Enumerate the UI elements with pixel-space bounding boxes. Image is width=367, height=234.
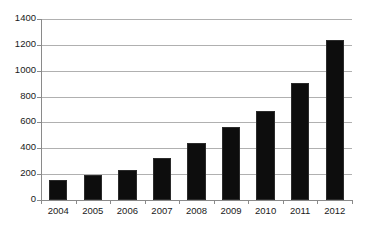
x-axis-label-2011: 2011	[283, 205, 318, 216]
bar-2008	[187, 143, 205, 200]
bar-2007	[153, 158, 171, 200]
y-axis-tick-600	[37, 122, 41, 123]
y-axis-label-1000: 1000	[3, 65, 36, 75]
y-axis-tick-1200	[37, 45, 41, 46]
x-axis-tick-6	[248, 200, 249, 204]
x-axis-tick-7	[283, 200, 284, 204]
bar-2012	[326, 40, 344, 200]
bar-2005	[84, 175, 102, 200]
x-axis-label-2005: 2005	[76, 205, 111, 216]
x-axis-label-2006: 2006	[110, 205, 145, 216]
y-axis-tick-400	[37, 148, 41, 149]
y-axis-tick-1000	[37, 71, 41, 72]
x-axis-tick-0	[41, 200, 42, 204]
y-axis-label-0: 0	[3, 194, 36, 204]
x-axis-tick-8	[317, 200, 318, 204]
y-axis-labels: 0200400600800100012001400	[0, 0, 36, 234]
x-axis-label-2004: 2004	[41, 205, 76, 216]
y-axis-label-800: 800	[3, 91, 36, 101]
bar-2011	[291, 83, 309, 200]
y-axis-tick-200	[37, 174, 41, 175]
y-axis-label-200: 200	[3, 168, 36, 178]
x-axis-label-2012: 2012	[317, 205, 352, 216]
bar-chart: 0200400600800100012001400 20042005200620…	[0, 0, 367, 234]
x-axis-tick-end	[352, 200, 353, 204]
y-axis-label-1200: 1200	[3, 39, 36, 49]
x-axis-label-2007: 2007	[145, 205, 180, 216]
bar-2006	[118, 170, 136, 200]
y-axis-tick-800	[37, 97, 41, 98]
x-axis-tick-3	[145, 200, 146, 204]
x-axis-label-2009: 2009	[214, 205, 249, 216]
y-axis-label-400: 400	[3, 142, 36, 152]
bar-series	[41, 19, 352, 200]
bar-2004	[49, 180, 67, 200]
y-axis-tick-1400	[37, 19, 41, 20]
x-axis-label-2008: 2008	[179, 205, 214, 216]
bar-2009	[222, 127, 240, 200]
x-axis-tick-2	[110, 200, 111, 204]
gridline-0	[41, 200, 352, 201]
x-axis-tick-4	[179, 200, 180, 204]
x-axis-label-2010: 2010	[248, 205, 283, 216]
y-axis-label-1400: 1400	[3, 13, 36, 23]
x-axis-tick-1	[76, 200, 77, 204]
bar-2010	[256, 111, 274, 200]
y-axis-label-600: 600	[3, 116, 36, 126]
x-axis-tick-5	[214, 200, 215, 204]
